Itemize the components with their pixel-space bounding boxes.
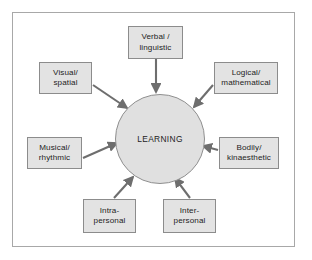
node-label-line1: Verbal / [141, 32, 169, 43]
center-node-label: LEARNING [137, 134, 183, 144]
center-node-learning: LEARNING [115, 94, 205, 184]
node-label-line2: linguistic [139, 43, 171, 54]
node-label-line1: Inter- [180, 206, 200, 217]
node-label-line2: spatial [53, 78, 77, 89]
node-bodily-kinaesthetic: Bodily/ kinaesthetic [219, 137, 279, 169]
node-label-line1: Intra- [100, 206, 120, 217]
node-label-line2: rhythmic [39, 153, 70, 164]
node-visual-spatial: Visual/ spatial [39, 62, 92, 94]
arrow-visual-to-center [93, 85, 127, 108]
learning-styles-diagram: LEARNING Verbal / linguistic Visual/ spa… [0, 0, 312, 260]
node-inter-personal: Inter- personal [163, 199, 216, 233]
arrow-logical-to-center [194, 85, 213, 107]
node-verbal-linguistic: Verbal / linguistic [128, 26, 183, 59]
arrow-bodily-to-center [203, 146, 218, 150]
node-label-line2: personal [174, 216, 206, 227]
node-label-line1: Logical/ [232, 68, 261, 79]
node-label-line2: personal [94, 216, 126, 227]
node-label-line1: Visual/ [53, 68, 78, 79]
arrow-interpersonal-to-center [175, 178, 190, 198]
node-logical-mathematical: Logical/ mathematical [214, 62, 278, 94]
node-label-line1: Musical/ [39, 143, 69, 154]
node-label-line1: Bodily/ [237, 143, 262, 154]
arrow-intrapersonal-to-center [114, 177, 133, 198]
node-musical-rhythmic: Musical/ rhythmic [27, 137, 82, 169]
node-label-line2: mathematical [221, 78, 270, 89]
node-intra-personal: Intra- personal [83, 199, 136, 233]
node-label-line2: kinaesthetic [227, 153, 271, 164]
arrow-musical-to-center [83, 143, 117, 158]
